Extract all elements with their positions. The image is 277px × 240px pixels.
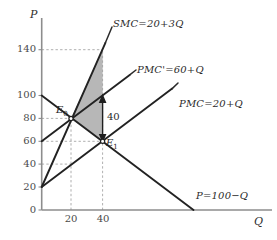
leader-smc [105,27,112,43]
ytick-label-100: 100 [10,89,36,100]
leader-pmc-prime [130,70,136,75]
curve-label-smc: SMC=20+3Q [113,18,184,29]
point-e1-marker [101,139,105,143]
point-e0-marker [69,116,73,120]
xtick-label-40: 40 [91,213,115,224]
point-label-e0-sub: 0 [63,110,67,118]
label-leader-lines [105,27,178,89]
ytick-label-60: 60 [10,135,36,146]
point-label-e1-sub: 1 [113,143,117,151]
ytick-label-20: 20 [10,181,36,192]
welfare-loss-triangle [71,50,103,142]
economics-chart-figure: P Q 140 100 80 60 40 20 0 20 40 SMC=20+3… [0,0,277,240]
curve-label-pmc-prime: PMC'=60+Q [137,64,204,75]
point-label-e1: E1 [106,137,118,151]
leader-pmc [172,83,178,89]
ytick-label-40: 40 [10,158,36,169]
y-axis-label: P [30,8,37,21]
xtick-label-20: 20 [59,213,83,224]
point-label-e0: E0 [56,104,68,118]
x-axis-label: Q [254,215,263,228]
gap-annotation-40: 40 [107,111,120,122]
chart-plot-area [0,0,277,240]
curve-label-pmc: PMC=20+Q [179,98,243,109]
ytick-label-0: 0 [10,204,36,215]
ytick-label-140: 140 [10,43,36,54]
curve-label-demand: P=100−Q [196,190,248,201]
ytick-label-80: 80 [10,112,36,123]
